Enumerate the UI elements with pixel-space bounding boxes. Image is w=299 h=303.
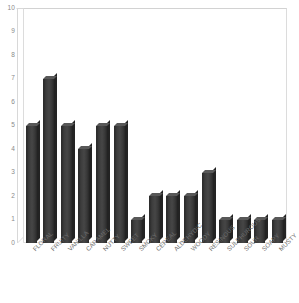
x-axis-label-slot: WOODY <box>181 246 199 303</box>
x-axis-label-slot: CARAMEL <box>76 246 94 303</box>
bar-top-face <box>61 123 75 126</box>
bar <box>114 126 125 244</box>
y-axis-tick-label: 8 <box>1 52 15 59</box>
bar-top-face <box>96 123 110 126</box>
bar-side-face <box>54 73 57 241</box>
bar-slot <box>93 8 111 243</box>
y-axis-tick-label: 1 <box>1 216 15 223</box>
bar-top-face <box>114 123 128 126</box>
bar-side-face <box>160 190 163 240</box>
x-axis-label-slot: NUTTY <box>93 246 111 303</box>
y-axis-tick-label: 6 <box>1 99 15 106</box>
bar-side-face <box>72 120 75 241</box>
bar-front-face <box>26 126 37 244</box>
x-axis-label-slot: SOUR <box>234 246 252 303</box>
bar <box>61 126 72 244</box>
bar-side-face <box>107 120 110 241</box>
bar-top-face <box>272 217 286 220</box>
y-axis-tick-label: 10 <box>1 5 15 12</box>
bars-layer <box>23 8 287 243</box>
y-axis-tick-label: 0 <box>1 240 15 247</box>
bar <box>26 126 37 244</box>
bar-top-face <box>26 123 40 126</box>
x-axis-label-slot: SULPHUROUS <box>217 246 235 303</box>
bar-side-face <box>213 167 216 241</box>
bar-side-face <box>37 120 40 241</box>
y-axis-tick-label: 3 <box>1 169 15 176</box>
bar-slot <box>129 8 147 243</box>
bar-slot <box>181 8 199 243</box>
bar-slot <box>76 8 94 243</box>
y-axis-tick-label: 5 <box>1 122 15 129</box>
bar-side-face <box>89 143 92 240</box>
x-axis-label-slot: ALDEHYDIC <box>164 246 182 303</box>
bar-top-face <box>237 217 251 220</box>
x-axis-label-slot: CEREAL <box>146 246 164 303</box>
bar-slot <box>23 8 41 243</box>
bar-front-face <box>43 79 54 244</box>
bar-slot <box>199 8 217 243</box>
x-axis-label-slot: MUSTY <box>269 246 287 303</box>
bar-front-face <box>61 126 72 244</box>
x-axis-label-slot: FLORAL <box>23 246 41 303</box>
x-axis-label-slot: SMOKY <box>129 246 147 303</box>
y-axis-tick-label: 7 <box>1 75 15 82</box>
y-axis-tick-label: 4 <box>1 146 15 153</box>
bar-side-face <box>125 120 128 241</box>
bar <box>43 79 54 244</box>
x-axis-label-slot: SOAPY <box>252 246 270 303</box>
x-axis-labels: FLORALFRUITYVANILLACARAMELNUTTYSWEETSMOK… <box>23 246 287 303</box>
bar-slot <box>164 8 182 243</box>
y-axis-tick-label: 2 <box>1 193 15 200</box>
bar-slot <box>269 8 287 243</box>
x-axis-label-slot: FRUITY <box>41 246 59 303</box>
bar-slot <box>217 8 235 243</box>
bar-front-face <box>114 126 125 244</box>
x-axis-label-slot: VANILLA <box>58 246 76 303</box>
bar-slot <box>41 8 59 243</box>
bar-slot <box>252 8 270 243</box>
bar-slot <box>146 8 164 243</box>
x-axis-label-slot: SWEET <box>111 246 129 303</box>
bar-slot <box>234 8 252 243</box>
bar-slot <box>58 8 76 243</box>
x-axis-label-slot: RESINOUS <box>199 246 217 303</box>
bar-slot <box>111 8 129 243</box>
y-axis: 109876543210 <box>0 0 18 248</box>
y-axis-tick-label: 9 <box>1 28 15 35</box>
bar-side-face <box>177 190 180 240</box>
bar-chart: 109876543210 FLORALFRUITYVANILLACARAMELN… <box>0 0 299 303</box>
bar-top-face <box>202 170 216 173</box>
